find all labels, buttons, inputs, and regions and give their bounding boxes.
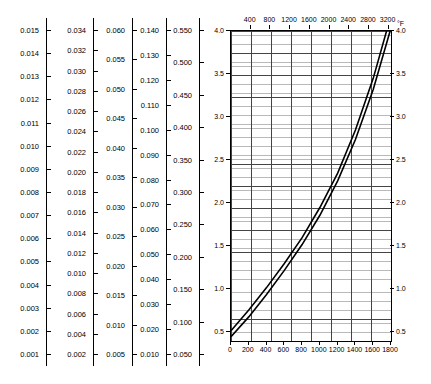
axis-tick-label: 0.015 <box>106 292 125 299</box>
axis-tick-label: 0.003 <box>20 304 39 311</box>
axis-tick <box>199 289 204 290</box>
axis-tick-label: 0.010 <box>140 351 159 358</box>
axis-tick <box>46 285 51 286</box>
axis-tick-label: 0.004 <box>67 330 86 337</box>
axis-tick-label: 0.150 <box>173 286 192 293</box>
y-tick-right <box>390 331 394 332</box>
y-tick-left <box>226 245 230 246</box>
x-tick-label: 800 <box>292 346 310 353</box>
axis-tick <box>166 279 171 280</box>
axis-tick-label: 0.035 <box>106 174 125 181</box>
y-tick-label-right: 2.0 <box>396 199 414 206</box>
axis-tick <box>199 224 204 225</box>
y-tick-label-right: 2.5 <box>396 156 414 163</box>
axis-tick-label: 0.002 <box>20 327 39 334</box>
axis-tick-label: 0.026 <box>67 108 86 115</box>
axis-tick <box>46 146 51 147</box>
axis-tick-label: 0.005 <box>20 258 39 265</box>
y-tick-left <box>226 202 230 203</box>
axis-tick-label: 0.030 <box>140 301 159 308</box>
axis-tick <box>46 169 51 170</box>
axis-tick-label: 0.006 <box>20 235 39 242</box>
x-tick-label: 600 <box>274 346 292 353</box>
x-tick <box>266 341 267 345</box>
axis-tick <box>93 334 98 335</box>
x-tick <box>248 341 249 345</box>
x-tick <box>230 341 231 345</box>
x-tick <box>283 341 284 345</box>
axis-tick <box>132 354 137 355</box>
axis-tick-label: 0.090 <box>140 151 159 158</box>
axis-tick <box>93 111 98 112</box>
axis-tick <box>132 207 137 208</box>
top-tick-label: 400 <box>240 16 260 23</box>
axis-tick <box>166 180 171 181</box>
axis-tick-label: 0.010 <box>20 142 39 149</box>
axis-tick <box>199 192 204 193</box>
axis-tick <box>93 192 98 193</box>
axis-tick <box>132 295 137 296</box>
axis-tick-label: 0.018 <box>67 189 86 196</box>
axis-tick <box>46 53 51 54</box>
y-tick-label-right: 0.5 <box>396 328 414 335</box>
x-tick-label: 1800 <box>381 346 399 353</box>
axis-tick <box>46 215 51 216</box>
axis-tick <box>93 131 98 132</box>
top-tick <box>329 25 330 29</box>
axis-tick <box>166 30 171 31</box>
scale-axis-5: 0.5500.5000.4500.4000.3500.3000.2500.200… <box>199 18 200 366</box>
y-tick-label-left: 2.5 <box>206 156 224 163</box>
top-tick-label: 1200 <box>279 16 299 23</box>
x-tick-label: 200 <box>239 346 257 353</box>
axis-tick <box>166 254 171 255</box>
top-tick-label: 1600 <box>299 16 319 23</box>
axis-tick <box>46 99 51 100</box>
top-tick <box>348 25 349 29</box>
axis-tick <box>46 238 51 239</box>
x-tick-label: 1600 <box>363 346 381 353</box>
top-tick-label: 2800 <box>358 16 378 23</box>
axis-tick-label: 0.030 <box>106 203 125 210</box>
series-lines <box>231 31 391 341</box>
axis-tick <box>132 30 137 31</box>
axis-tick <box>132 148 137 149</box>
axis-tick-label: 0.050 <box>173 351 192 358</box>
main-chart: Ω · mm² / m °F 0200400600800100012001400… <box>205 8 423 376</box>
axis-tick <box>132 266 137 267</box>
axis-tick-label: 0.013 <box>20 73 39 80</box>
axis-tick <box>199 322 204 323</box>
axis-tick <box>166 354 171 355</box>
x-tick-label: 1000 <box>310 346 328 353</box>
y-tick-label-right: 1.5 <box>396 242 414 249</box>
side-axes-group: 0.0150.0140.0130.0120.0110.0100.0090.008… <box>0 0 200 384</box>
axis-tick-label: 0.080 <box>140 176 159 183</box>
axis-tick <box>93 354 98 355</box>
axis-tick <box>46 354 51 355</box>
x-tick-label: 1400 <box>345 346 363 353</box>
axis-tick <box>93 233 98 234</box>
scale-axis-4: 0.1400.1300.1200.1100.1000.0900.0800.070… <box>166 18 167 366</box>
x-tick <box>372 341 373 345</box>
y-tick-label-right: 1.0 <box>396 285 414 292</box>
y-tick-label-left: 4.0 <box>206 27 224 34</box>
axis-tick <box>46 331 51 332</box>
x-tick <box>337 341 338 345</box>
axis-tick-label: 0.014 <box>67 229 86 236</box>
axis-tick <box>166 55 171 56</box>
axis-tick-label: 0.015 <box>20 27 39 34</box>
axis-tick-label: 0.028 <box>67 87 86 94</box>
axis-tick-label: 0.009 <box>20 165 39 172</box>
axis-tick-label: 0.030 <box>67 67 86 74</box>
axis-tick <box>132 236 137 237</box>
axis-tick <box>166 105 171 106</box>
y-tick-label-left: 3.5 <box>206 70 224 77</box>
plot-area <box>230 30 392 342</box>
y-tick-left <box>226 159 230 160</box>
axis-tick <box>166 229 171 230</box>
axis-tick <box>199 62 204 63</box>
y-tick-right <box>390 245 394 246</box>
y-tick-label-left: 1.5 <box>206 242 224 249</box>
x-tick <box>390 341 391 345</box>
axis-tick-label: 0.001 <box>20 351 39 358</box>
axis-tick-label: 0.450 <box>173 91 192 98</box>
